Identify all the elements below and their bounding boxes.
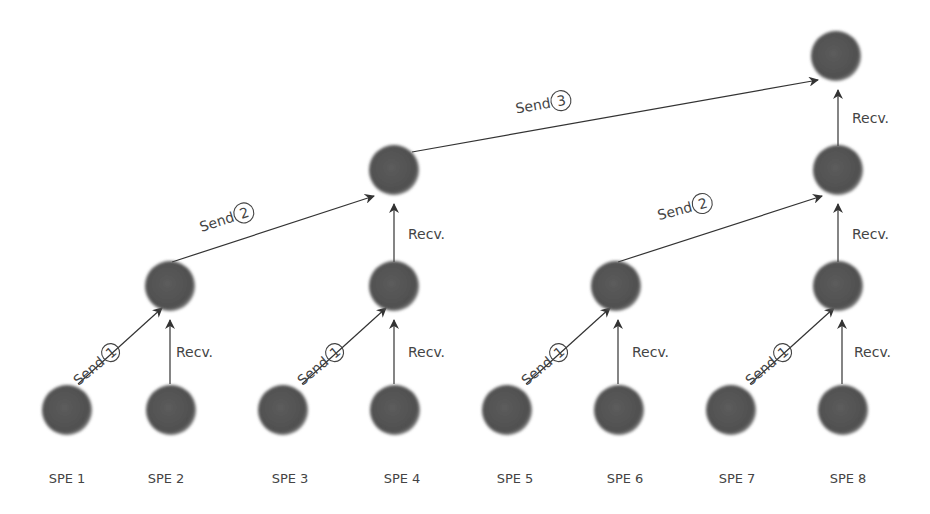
svg-text:Send: Send: [70, 353, 107, 388]
node-l2-spe8: [813, 145, 863, 195]
node-spe8: [818, 385, 868, 435]
spe-label-4: SPE 4: [384, 471, 421, 486]
node-spe7: [706, 385, 756, 435]
svg-text:Send: Send: [656, 199, 694, 224]
node-spe6: [594, 385, 644, 435]
spe-label-1: SPE 1: [49, 471, 86, 486]
recv-label-l2-right: Recv.: [852, 226, 889, 242]
node-l3-spe8: [811, 31, 861, 81]
send2-label-left: Send 2: [197, 200, 256, 236]
spe-label-2: SPE 2: [148, 471, 185, 486]
send1-label-b: Send 1: [294, 340, 348, 389]
svg-text:3: 3: [556, 92, 568, 109]
recv-label-spe6: Recv.: [632, 344, 669, 360]
edges: [78, 80, 842, 384]
svg-text:2: 2: [696, 195, 709, 213]
reduction-tree-diagram: Send 1 Send 1 Send 1 Send 1 Send 2 Send …: [0, 0, 930, 514]
node-l1-spe2: [145, 261, 195, 311]
recv-label-spe4: Recv.: [408, 344, 445, 360]
node-spe1: [42, 385, 92, 435]
spe-label-7: SPE 7: [719, 471, 756, 486]
svg-text:Send: Send: [742, 353, 779, 388]
node-l1-spe8: [813, 261, 863, 311]
svg-text:Send: Send: [198, 209, 236, 235]
node-l2-spe4: [369, 145, 419, 195]
spe-label-3: SPE 3: [272, 471, 309, 486]
svg-text:2: 2: [237, 204, 250, 222]
recv-label-l2-left: Recv.: [408, 226, 445, 242]
recv-label-spe8: Recv.: [854, 344, 891, 360]
node-spe3: [258, 385, 308, 435]
recv-label-l3: Recv.: [852, 110, 889, 126]
node-spe4: [370, 385, 420, 435]
spe-label-8: SPE 8: [830, 471, 867, 486]
svg-text:Send: Send: [294, 353, 331, 388]
send3-label: Send 3: [514, 89, 573, 118]
recv-label-spe2: Recv.: [176, 344, 213, 360]
svg-text:Send: Send: [518, 353, 555, 388]
node-spe5: [482, 385, 532, 435]
node-l1-spe6: [591, 261, 641, 311]
send2-label-right: Send 2: [655, 191, 714, 225]
send1-label-d: Send 1: [742, 340, 796, 389]
spe-label-6: SPE 6: [607, 471, 644, 486]
spe-label-5: SPE 5: [497, 471, 534, 486]
svg-text:Send: Send: [514, 95, 552, 117]
node-spe2: [146, 385, 196, 435]
edge-send2-right: [618, 196, 822, 262]
edge-send3: [412, 80, 818, 152]
send1-label-a: Send 1: [70, 340, 124, 389]
send1-label-c: Send 1: [518, 340, 572, 389]
node-l1-spe4: [369, 261, 419, 311]
